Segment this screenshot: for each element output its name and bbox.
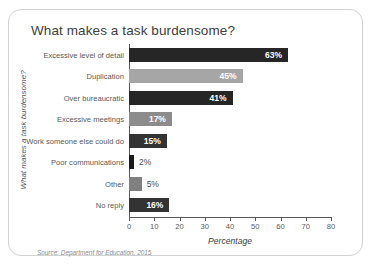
x-tick-label: 70 bbox=[302, 222, 310, 231]
bar-row: Over bureaucratic41% bbox=[129, 91, 331, 105]
x-tick-mark bbox=[306, 217, 307, 221]
x-tick-mark bbox=[331, 217, 332, 221]
plot-area: Excessive level of detail63%Duplication4… bbox=[129, 44, 331, 216]
category-label: No reply bbox=[96, 201, 124, 210]
x-tick-label: 60 bbox=[276, 222, 284, 231]
bar-value-label: 15% bbox=[144, 136, 161, 146]
bar bbox=[129, 155, 134, 169]
y-axis-title: What makes a task burdensome? bbox=[19, 70, 28, 189]
bar-value-label: 5% bbox=[147, 179, 159, 189]
x-tick-mark bbox=[129, 217, 130, 221]
bar-row: Poor communications2% bbox=[129, 155, 331, 169]
bar-row: Other5% bbox=[129, 177, 331, 191]
bar-row: No reply16% bbox=[129, 198, 331, 212]
category-label: Excessive level of detail bbox=[43, 50, 124, 59]
page-title: What makes a task burdensome? bbox=[31, 23, 235, 38]
bar-row: Excessive level of detail63% bbox=[129, 48, 331, 62]
bar-value-label: 63% bbox=[265, 50, 282, 60]
category-label: Work someone else could do bbox=[26, 136, 124, 145]
x-tick-mark bbox=[281, 217, 282, 221]
x-tick-mark bbox=[230, 217, 231, 221]
x-tick-label: 40 bbox=[226, 222, 234, 231]
bar-row: Duplication45% bbox=[129, 69, 331, 83]
chart-card: What makes a task burdensome? What makes… bbox=[8, 9, 363, 256]
bar bbox=[129, 177, 142, 191]
x-tick-label: 50 bbox=[251, 222, 259, 231]
source-note: Source: Department for Education, 2015 bbox=[37, 249, 151, 256]
category-label: Other bbox=[105, 179, 124, 188]
x-tick-label: 30 bbox=[201, 222, 209, 231]
category-label: Duplication bbox=[86, 72, 124, 81]
category-label: Over bureaucratic bbox=[64, 93, 124, 102]
x-tick-label: 10 bbox=[150, 222, 158, 231]
bar-row: Work someone else could do15% bbox=[129, 134, 331, 148]
bar-value-label: 16% bbox=[146, 200, 163, 210]
x-tick-label: 80 bbox=[327, 222, 335, 231]
x-tick-mark bbox=[180, 217, 181, 221]
x-tick-mark bbox=[205, 217, 206, 221]
category-label: Excessive meetings bbox=[57, 115, 124, 124]
x-tick-label: 20 bbox=[175, 222, 183, 231]
x-tick-mark bbox=[154, 217, 155, 221]
bar-value-label: 2% bbox=[139, 157, 151, 167]
x-tick-label: 0 bbox=[127, 222, 131, 231]
x-axis-title: Percentage bbox=[208, 236, 252, 246]
category-label: Poor communications bbox=[51, 158, 124, 167]
bar-value-label: 45% bbox=[220, 71, 237, 81]
x-tick-mark bbox=[255, 217, 256, 221]
bar-value-label: 41% bbox=[210, 93, 227, 103]
bar-row: Excessive meetings17% bbox=[129, 112, 331, 126]
bar-value-label: 17% bbox=[149, 114, 166, 124]
